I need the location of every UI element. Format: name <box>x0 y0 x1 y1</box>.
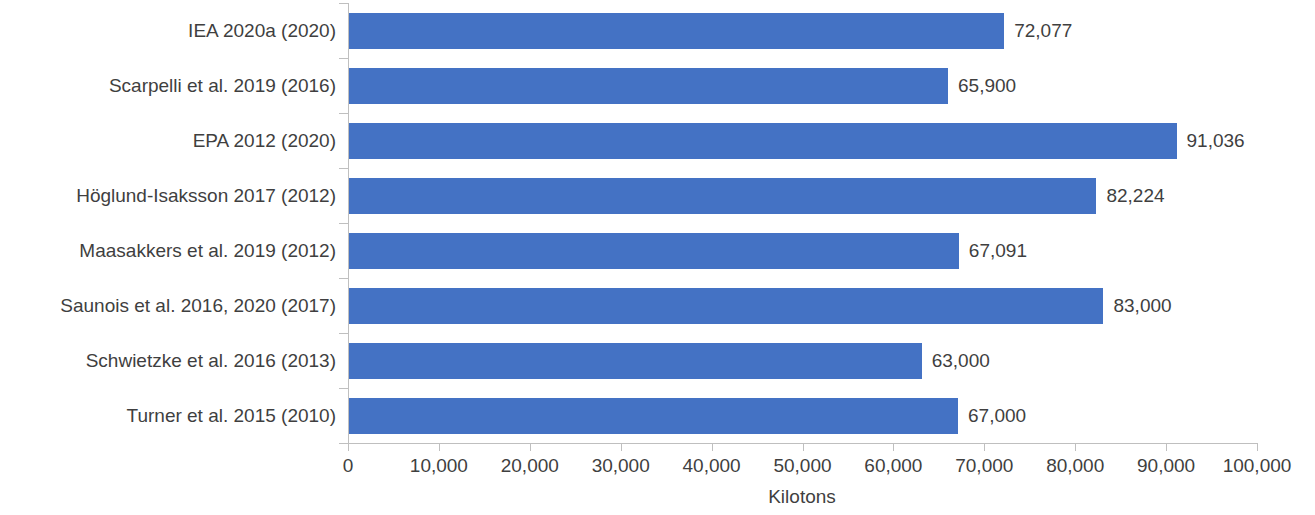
y-axis-tick <box>339 58 348 59</box>
x-axis-tick-label: 40,000 <box>683 455 741 477</box>
category-label: Turner et al. 2015 (2010) <box>0 405 348 427</box>
bar <box>349 343 922 379</box>
x-axis-tick <box>803 443 804 451</box>
bar <box>349 398 958 434</box>
bar-value-label: 82,224 <box>1106 185 1164 207</box>
category-label: IEA 2020a (2020) <box>0 20 348 42</box>
x-axis-tick-label: 10,000 <box>410 455 468 477</box>
y-axis-tick <box>339 113 348 114</box>
category-label: Maasakkers et al. 2019 (2012) <box>0 240 348 262</box>
bar-value-label: 63,000 <box>932 350 990 372</box>
category-label: Höglund-Isaksson 2017 (2012) <box>0 185 348 207</box>
category-label: EPA 2012 (2020) <box>0 130 348 152</box>
y-axis-tick <box>339 3 348 4</box>
x-axis-tick-label: 90,000 <box>1137 455 1195 477</box>
x-axis-tick-label: 70,000 <box>955 455 1013 477</box>
x-axis-tick <box>348 443 349 451</box>
x-axis-tick-label: 100,000 <box>1223 455 1292 477</box>
x-axis-tick-label: 20,000 <box>501 455 559 477</box>
category-label: Saunois et al. 2016, 2020 (2017) <box>0 295 348 317</box>
x-axis-tick-label: 60,000 <box>864 455 922 477</box>
bar-value-label: 83,000 <box>1113 295 1171 317</box>
x-axis-tick <box>1166 443 1167 451</box>
y-axis-tick <box>339 223 348 224</box>
bar <box>349 13 1004 49</box>
category-label: Scarpelli et al. 2019 (2016) <box>0 75 348 97</box>
bar <box>349 68 948 104</box>
x-axis-tick <box>1075 443 1076 451</box>
x-axis-tick <box>984 443 985 451</box>
x-axis-tick <box>893 443 894 451</box>
bar <box>349 123 1177 159</box>
x-axis-tick <box>621 443 622 451</box>
x-axis-tick-label: 30,000 <box>592 455 650 477</box>
y-axis-tick <box>339 278 348 279</box>
bar-value-label: 72,077 <box>1014 20 1072 42</box>
bar <box>349 288 1103 324</box>
bar-value-label: 91,036 <box>1187 130 1245 152</box>
x-axis-tick-label: 50,000 <box>773 455 831 477</box>
bar-chart: IEA 2020a (2020)Scarpelli et al. 2019 (2… <box>0 0 1315 515</box>
x-axis-tick <box>439 443 440 451</box>
bar-value-label: 67,091 <box>969 240 1027 262</box>
category-label: Schwietzke et al. 2016 (2013) <box>0 350 348 372</box>
y-axis-tick <box>339 333 348 334</box>
x-axis-title: Kilotons <box>768 486 836 508</box>
x-axis-tick <box>712 443 713 451</box>
y-axis-tick <box>339 388 348 389</box>
y-axis-tick <box>339 168 348 169</box>
bar <box>349 233 959 269</box>
y-axis-tick <box>339 443 348 444</box>
bar-value-label: 67,000 <box>968 405 1026 427</box>
bar-value-label: 65,900 <box>958 75 1016 97</box>
x-axis-tick <box>1257 443 1258 451</box>
x-axis-tick <box>530 443 531 451</box>
x-axis-tick-label: 0 <box>343 455 354 477</box>
x-axis-tick-label: 80,000 <box>1046 455 1104 477</box>
bar <box>349 178 1096 214</box>
